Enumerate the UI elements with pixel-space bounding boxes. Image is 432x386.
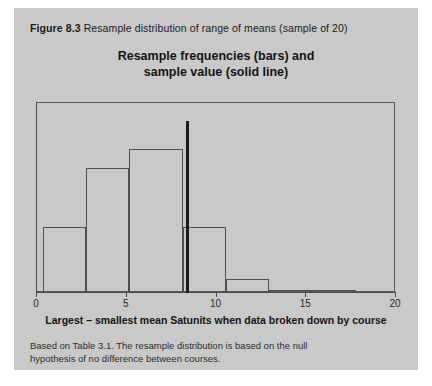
- figure-note: Based on Table 3.1. The resample distrib…: [30, 339, 330, 365]
- x-axis-tick-label: 0: [33, 298, 39, 309]
- x-axis-tick: [395, 293, 396, 297]
- histogram-bar: [86, 168, 129, 292]
- x-axis-tick-label: 15: [300, 298, 311, 309]
- x-axis-tick: [36, 293, 37, 297]
- x-axis-tick: [216, 293, 217, 297]
- figure-panel: Figure 8.3 Resample distribution of rang…: [14, 8, 418, 370]
- x-axis-tick-label: 20: [389, 298, 400, 309]
- y-axis-line: [36, 102, 37, 293]
- x-axis-label: Largest – smallest mean Satunits when da…: [14, 314, 418, 326]
- histogram-bar: [183, 227, 226, 292]
- histogram-bar: [269, 290, 312, 292]
- histogram-bar: [129, 149, 183, 292]
- x-axis-tick: [126, 293, 127, 297]
- x-axis-tick-label: 10: [210, 298, 221, 309]
- x-axis-tick: [305, 293, 306, 297]
- histogram-bar: [43, 227, 86, 292]
- histogram-bar: [226, 279, 269, 292]
- x-axis-tick-label: 5: [123, 298, 129, 309]
- sample-value-line-icon: [186, 121, 189, 293]
- histogram-bar: [312, 290, 355, 292]
